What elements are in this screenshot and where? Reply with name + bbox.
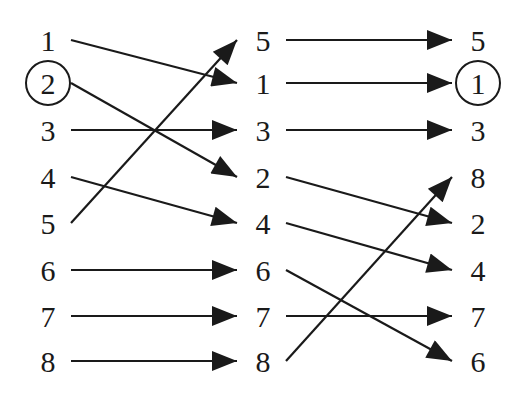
node-label-col2: 5	[243, 26, 283, 56]
node-label-col1: 5	[28, 209, 68, 239]
node-label-col3: 2	[458, 209, 498, 239]
node-label-col2: 4	[243, 209, 283, 239]
permutation-diagram: 123456785132467851382476	[0, 0, 519, 394]
arrow-5	[71, 40, 237, 223]
node-label-col1: 7	[28, 302, 68, 332]
node-label-col3: 5	[458, 26, 498, 56]
node-label-col3: 8	[458, 163, 498, 193]
node-label-col1: 3	[28, 116, 68, 146]
arrow-4	[286, 223, 452, 270]
arrows-layer	[0, 0, 519, 394]
node-label-col2: 7	[243, 302, 283, 332]
arrow-8	[286, 177, 452, 361]
node-label-col3: 4	[458, 256, 498, 286]
node-label-col3: 3	[458, 116, 498, 146]
arrow-2	[286, 177, 452, 223]
highlight-circle	[455, 60, 501, 106]
node-label-col2: 1	[243, 69, 283, 99]
node-label-col2: 6	[243, 256, 283, 286]
node-label-col3: 6	[458, 347, 498, 377]
node-label-col3: 7	[458, 302, 498, 332]
arrow-1	[71, 40, 237, 83]
node-label-col1: 6	[28, 256, 68, 286]
node-label-col2: 8	[243, 347, 283, 377]
node-label-col1: 1	[28, 26, 68, 56]
highlight-circle	[25, 60, 71, 106]
node-label-col2: 3	[243, 116, 283, 146]
node-label-col2: 2	[243, 163, 283, 193]
node-label-col1: 4	[28, 163, 68, 193]
arrow-4	[71, 177, 237, 223]
node-label-col1: 8	[28, 347, 68, 377]
